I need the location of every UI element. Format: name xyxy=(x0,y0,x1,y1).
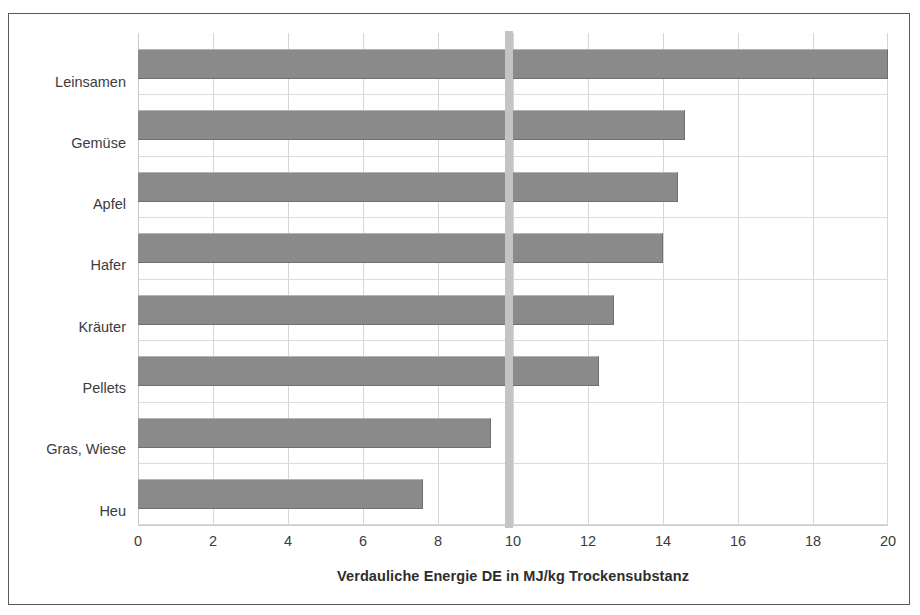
bar-gras-wiese[interactable] xyxy=(138,418,491,448)
category-label-kraeuter: Kräuter xyxy=(0,319,126,335)
xtick-label-8: 8 xyxy=(418,533,458,549)
category-label-hafer: Hafer xyxy=(0,257,126,273)
bar-kraeuter[interactable] xyxy=(138,295,614,325)
value-axis-title: Verdauliche Energie DE in MJ/kg Trockens… xyxy=(138,568,888,584)
plot-area xyxy=(138,33,888,525)
xtick-label-18: 18 xyxy=(793,533,833,549)
gridline-y-4 xyxy=(138,279,888,280)
xtick-label-0: 0 xyxy=(118,533,158,549)
gridline-y-5 xyxy=(138,340,888,341)
chart-figure: Leinsamen Gemüse Apfel Hafer Kräuter Pel… xyxy=(0,0,920,615)
gridline-y-7 xyxy=(138,463,888,464)
category-label-gras-wiese: Gras, Wiese xyxy=(0,441,126,457)
category-label-gemuese: Gemüse xyxy=(0,135,126,151)
xtick-label-10: 10 xyxy=(493,533,533,549)
reference-line-10-marker xyxy=(505,31,513,528)
category-label-apfel: Apfel xyxy=(0,196,126,212)
bar-hafer[interactable] xyxy=(138,233,663,263)
gridline-y-3 xyxy=(138,217,888,218)
xtick-label-16: 16 xyxy=(718,533,758,549)
xtick-label-6: 6 xyxy=(343,533,383,549)
category-label-leinsamen: Leinsamen xyxy=(0,74,126,90)
xtick-label-14: 14 xyxy=(643,533,683,549)
category-label-pellets: Pellets xyxy=(0,380,126,396)
bar-pellets[interactable] xyxy=(138,356,599,386)
gridline-y-6 xyxy=(138,402,888,403)
xtick-label-2: 2 xyxy=(193,533,233,549)
xtick-label-20: 20 xyxy=(868,533,908,549)
category-axis-labels: Leinsamen Gemüse Apfel Hafer Kräuter Pel… xyxy=(0,33,126,525)
bar-leinsamen[interactable] xyxy=(138,49,888,79)
value-axis-line xyxy=(138,525,888,526)
bar-apfel[interactable] xyxy=(138,172,678,202)
xtick-label-4: 4 xyxy=(268,533,308,549)
bar-heu[interactable] xyxy=(138,479,423,509)
category-axis-line xyxy=(138,33,139,525)
bar-gemuese[interactable] xyxy=(138,110,685,140)
gridline-y-1 xyxy=(138,94,888,95)
xtick-label-12: 12 xyxy=(568,533,608,549)
category-label-heu: Heu xyxy=(0,503,126,519)
gridline-y-2 xyxy=(138,156,888,157)
value-axis-tick-labels: 0 2 4 6 8 10 12 14 16 18 20 xyxy=(0,533,920,557)
